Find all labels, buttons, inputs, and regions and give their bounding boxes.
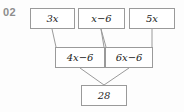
- worksheet-problem: 02 3x x−6 5x 4x−6 6x−6 28: [0, 0, 184, 112]
- cell-expression: 5x: [146, 13, 158, 24]
- cell-expression: 6x−6: [116, 52, 143, 63]
- cell-expression: 4x−6: [67, 52, 94, 63]
- cell-expression: 3x: [46, 13, 58, 24]
- pyramid-cell-top-1[interactable]: 3x: [30, 8, 75, 29]
- pyramid-cell-bottom-1[interactable]: 28: [81, 85, 127, 106]
- pyramid-cell-top-3[interactable]: 5x: [129, 8, 175, 29]
- pyramid-cell-top-2[interactable]: x−6: [78, 8, 125, 29]
- cell-expression: x−6: [91, 13, 111, 24]
- pyramid-cell-middle-2[interactable]: 6x−6: [105, 47, 153, 68]
- pyramid-cell-middle-1[interactable]: 4x−6: [55, 47, 105, 68]
- cell-expression: 28: [98, 90, 111, 101]
